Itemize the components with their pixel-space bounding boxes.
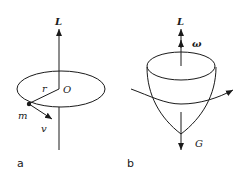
label-omega: ω [192,38,202,49]
figure: L O r m v a L ω G b [0,0,251,178]
orbit-ellipse [17,71,105,107]
label-L-a: L [54,16,62,27]
panel-b: L ω G b [127,16,233,170]
label-m: m [18,110,27,121]
label-G: G [195,138,203,149]
panel-label-b: b [127,157,134,170]
label-L-b: L [176,16,184,27]
label-v: v [41,123,47,134]
panel-label-a: a [17,157,24,170]
label-O: O [63,84,71,95]
precession-arrow [131,89,233,104]
label-r: r [42,83,48,94]
panel-a: L O r m v a [17,16,105,170]
